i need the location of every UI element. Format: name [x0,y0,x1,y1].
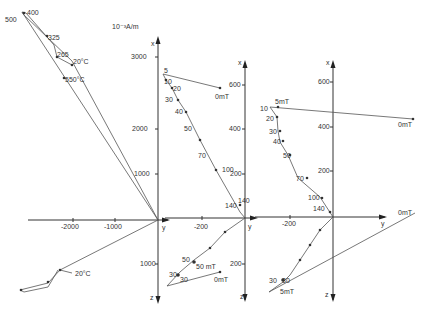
left-z-arrow-icon [156,296,161,304]
middle-tick-m200: -200 [194,223,208,230]
mid-label-140b: 140 [225,202,237,209]
right-tick-m200: -200 [282,220,296,227]
label-265: 265 [57,51,69,58]
right-label-100: 100 [308,194,320,201]
middle-tick-400: 400 [229,125,241,132]
right-x-label: x [326,59,330,66]
label-20c-vertical: 20°C [75,270,91,277]
mid-vlabel-30a: 30 [169,271,177,278]
middle-z-label: z [240,293,244,300]
mid-vlabel-30b: 30 [180,276,188,283]
middle-horizontal-path [163,74,245,218]
right-label-70: 70 [296,175,304,182]
left-tick-3000: 3000 [131,53,147,60]
label-400: 400 [27,9,39,16]
left-x-label: x [151,40,155,47]
mid-vlabel-50mt: 50 mT [196,263,217,270]
middle-x-arrow-icon [243,60,248,68]
left-panel: x z y 10⁻³A/m 3000 2000 1000 1000 -2000 … [5,9,170,304]
mid-label-100: 100 [222,166,234,173]
left-unit-label: 10⁻³A/m [112,23,139,30]
middle-y-arrow-icon [250,216,258,221]
label-325: 325 [48,34,60,41]
mid-vlabel-50: 50 [182,256,190,263]
left-tick-1000: 1000 [134,170,150,177]
mid-label-10: 10 [164,78,172,85]
right-label-5mt: 5mT [275,98,290,105]
right-label-40: 40 [273,138,281,145]
left-vertical-path [20,220,158,292]
left-ztick-1000: 1000 [140,260,156,267]
left-z-label: z [150,294,154,301]
left-x-arrow-icon [156,36,161,44]
right-label-20: 20 [266,115,274,122]
left-tick-m2000: -2000 [61,223,79,230]
right-x-arrow-icon [331,60,336,68]
right-label-50: 50 [283,152,291,159]
right-vlabel-30a: 30 [269,277,277,284]
mid-label-50: 50 [184,125,192,132]
right-panel: x z y 600 400 200 -200 5mT 10 20 30 40 5… [255,59,415,302]
middle-tick-600: 600 [229,81,241,88]
middle-x-label: x [238,59,242,66]
mid-label-70: 70 [198,152,206,159]
left-y-label: y [162,224,166,232]
label-550c: 550°C [65,76,85,83]
middle-y-label: y [248,223,252,231]
mid-label-140a: 140 [238,197,250,204]
right-tick-200: 200 [318,167,330,174]
middle-panel: x z y 600 400 200 200 -200 5 10 20 30 40… [163,59,258,302]
middle-ztick-200: 200 [230,260,242,267]
mid-vlabel-0mt: 0mT [214,276,229,283]
left-tick-2000: 2000 [132,125,148,132]
zijderveld-figure: x z y 10⁻³A/m 3000 2000 1000 1000 -2000 … [0,0,426,313]
right-tick-600: 600 [318,78,330,85]
mid-label-30: 30 [165,96,173,103]
right-tick-400: 400 [318,123,330,130]
right-label-0mt: 0mT [398,121,413,128]
mid-label-40: 40 [175,108,183,115]
left-tick-m1000: -1000 [104,223,122,230]
right-z-arrow-icon [331,294,336,302]
right-y-label: y [381,220,385,228]
mid-label-20: 20 [173,85,181,92]
right-label-30: 30 [269,128,277,135]
label-20c: 20°C [73,58,89,65]
right-vlabel-0mt: 0mT [398,209,413,216]
right-label-140: 140 [313,205,325,212]
mid-label-5: 5 [164,67,168,74]
label-500: 500 [5,16,17,23]
right-label-10: 10 [260,105,268,112]
right-y-arrow-icon [379,215,387,220]
right-vlabel-30b: 30 [282,277,290,284]
right-vlabel-5mt: 5mT [280,288,295,295]
mid-label-0mt: 0mT [215,93,230,100]
right-z-label: z [325,291,329,298]
